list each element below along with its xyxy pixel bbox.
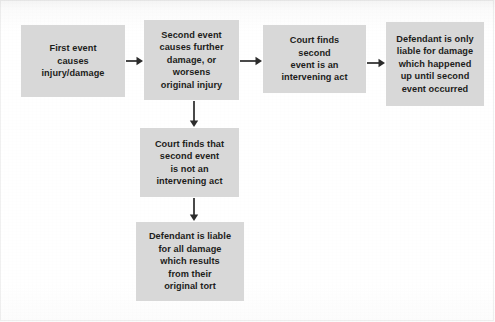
arrow-court-not-to-defendant-liable [188,198,200,221]
node-defendant-only-liable: Defendant is only liable for damage whic… [386,22,484,106]
node-first-event: First event causes injury/damage [21,25,125,97]
node-court-finds-intervening: Court finds second event is an interveni… [263,25,366,93]
node-label: Defendant is only liable for damage whic… [396,33,473,95]
flowchart-page: First event causes injury/damageSecond e… [0,0,495,322]
arrow-court-to-defendant-only [367,57,385,69]
node-defendant-liable-all: Defendant is liable for all damage which… [136,222,244,301]
node-label: First event causes injury/damage [42,42,105,79]
arrow-second-to-court-not-intervening [188,101,200,127]
node-label: Court finds second event is an interveni… [281,34,347,84]
arrow-second-to-court-intervening [240,55,262,67]
arrow-first-to-second [126,55,143,67]
node-label: Court finds that second event is not an … [155,138,224,188]
node-label: Defendant is liable for all damage which… [149,230,231,292]
node-second-event: Second event causes further damage, or w… [144,20,239,100]
node-court-finds-not-intervening: Court finds that second event is not an … [140,128,239,197]
node-label: Second event causes further damage, or w… [159,29,223,91]
